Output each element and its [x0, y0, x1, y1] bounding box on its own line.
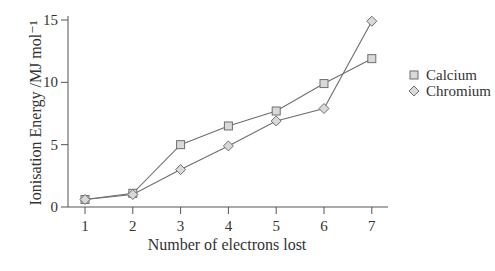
series-chromium — [85, 21, 372, 199]
diamond-marker — [223, 141, 233, 151]
legend-item-chromium: Chromium — [409, 83, 491, 99]
chart: 051015 1234567 Ionisation Energy /MJ mol… — [0, 0, 495, 271]
markers-calcium — [81, 55, 376, 204]
legend-label: Calcium — [426, 67, 477, 83]
diamond-marker — [409, 86, 419, 96]
square-marker — [368, 55, 376, 63]
axes: 051015 1234567 — [43, 12, 388, 234]
x-tick-label: 3 — [177, 218, 185, 234]
x-axis-title: Number of electrons lost — [148, 236, 307, 253]
markers-chromium — [80, 16, 377, 204]
diamond-marker — [271, 116, 281, 126]
square-marker — [177, 141, 185, 149]
square-marker — [410, 71, 418, 79]
diamond-marker — [367, 16, 377, 26]
y-axis-title: Ionisation Energy /MJ mol⁻¹ — [27, 20, 45, 205]
x-tick-label: 2 — [129, 218, 137, 234]
square-marker — [320, 80, 328, 88]
y-tick-label: 15 — [43, 12, 58, 28]
series-layer — [80, 16, 377, 204]
square-marker — [272, 107, 280, 115]
legend-item-calcium: Calcium — [410, 67, 477, 83]
series-line — [85, 21, 372, 199]
diamond-marker — [176, 165, 186, 175]
legend-label: Chromium — [426, 83, 491, 99]
diamond-marker — [319, 104, 329, 114]
square-marker — [224, 122, 232, 130]
y-ticks: 051015 — [43, 12, 68, 215]
x-tick-label: 4 — [225, 218, 233, 234]
y-tick-label: 5 — [51, 137, 59, 153]
x-tick-label: 5 — [272, 218, 280, 234]
y-tick-label: 10 — [43, 74, 58, 90]
legend: CalciumChromium — [409, 67, 491, 99]
x-tick-label: 1 — [81, 218, 89, 234]
x-ticks: 1234567 — [81, 207, 376, 234]
x-tick-label: 7 — [368, 218, 376, 234]
x-tick-label: 6 — [320, 218, 328, 234]
y-tick-label: 0 — [51, 199, 59, 215]
